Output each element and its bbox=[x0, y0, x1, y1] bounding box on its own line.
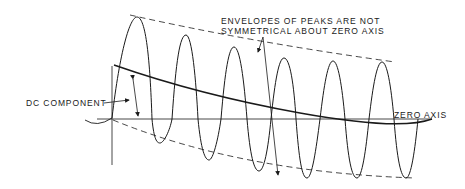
envelope-note-line1: ENVELOPES OF PEAKS ARE NOT bbox=[221, 16, 380, 26]
dc-label-pointer bbox=[104, 100, 129, 103]
zero-axis-label: ZERO AXIS bbox=[394, 110, 447, 120]
dc-component-label: DC COMPONENT bbox=[26, 98, 107, 108]
envelope-note-line2: SYMMETRICAL ABOUT ZERO AXIS bbox=[221, 26, 385, 36]
diagram-canvas: DC COMPONENT ENVELOPES OF PEAKS ARE NOT … bbox=[0, 0, 465, 189]
envelope-pointer-upper bbox=[258, 37, 263, 52]
dc-component-curve bbox=[114, 65, 432, 124]
lower-envelope bbox=[113, 120, 415, 178]
dc-magnitude-arrow bbox=[133, 79, 138, 116]
asymmetrical-waveform bbox=[112, 17, 418, 178]
